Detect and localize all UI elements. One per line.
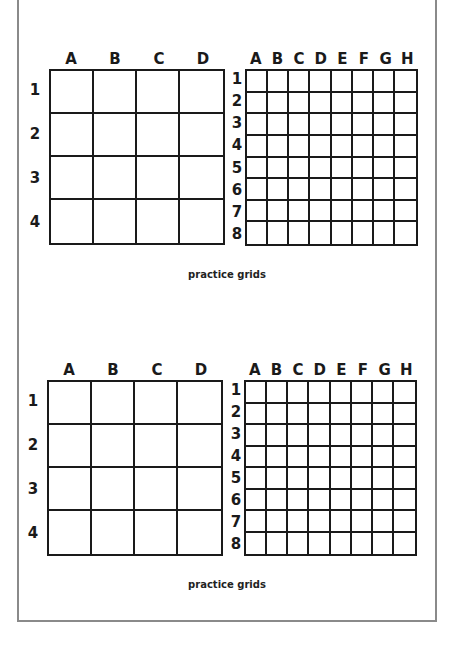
row-label: 5 [229, 471, 243, 486]
row-label: 4 [23, 526, 43, 541]
row-label: 3 [229, 427, 243, 442]
grid-cell [395, 201, 416, 223]
grid-cell [289, 201, 310, 223]
column-label: C [135, 363, 179, 378]
row-label: 2 [23, 438, 43, 453]
grid-cell [353, 71, 374, 93]
grid-cell [268, 222, 289, 244]
grid-cell [247, 201, 268, 223]
grid-cell [373, 511, 394, 533]
grid-cell [180, 157, 223, 200]
column-label: B [93, 52, 137, 67]
grid-cell [288, 425, 309, 447]
column-label: A [49, 52, 93, 67]
column-label: G [375, 52, 397, 67]
grid-cell [309, 511, 330, 533]
row-label: 3 [230, 116, 244, 131]
grid-cell [267, 490, 288, 512]
grid-cell [92, 382, 135, 425]
grid-cell [135, 511, 178, 554]
row-label: 2 [25, 127, 45, 142]
grid-cell [268, 136, 289, 158]
column-label: D [310, 52, 332, 67]
grid-cell [394, 468, 415, 490]
grid-cell [268, 114, 289, 136]
grid-cell [289, 114, 310, 136]
grid-cell [94, 200, 137, 243]
grid-cell [246, 425, 267, 447]
grid-cell [268, 179, 289, 201]
grid-cell [353, 114, 374, 136]
row-label: 8 [229, 537, 243, 552]
grid-cell [288, 404, 309, 426]
grid-cell [247, 158, 268, 180]
grid-cell [310, 71, 331, 93]
grid-cell [180, 200, 223, 243]
grid-cell [92, 425, 135, 468]
grid-cell [49, 468, 92, 511]
grid-cell [94, 157, 137, 200]
grid-cell [310, 222, 331, 244]
grid-cell [247, 71, 268, 93]
row-label: 1 [230, 72, 244, 87]
grid-cell [288, 490, 309, 512]
grid-cell [49, 382, 92, 425]
grid-cell [353, 136, 374, 158]
row-label: 2 [230, 94, 244, 109]
grid-cell [246, 382, 267, 404]
column-label: B [91, 363, 135, 378]
grid-cell [51, 114, 94, 157]
grid-cell [332, 179, 353, 201]
grid-cell [332, 136, 353, 158]
grid-cell [247, 93, 268, 115]
column-label: F [352, 363, 374, 378]
grid-cell [135, 382, 178, 425]
row-label: 2 [229, 405, 243, 420]
grid-cell [331, 447, 352, 469]
column-label: A [244, 363, 266, 378]
grid-cell [353, 179, 374, 201]
column-label: E [331, 363, 353, 378]
grid-cell [331, 490, 352, 512]
grid-cell [352, 468, 373, 490]
row-label: 3 [23, 482, 43, 497]
grid-cell [352, 425, 373, 447]
column-label: C [287, 363, 309, 378]
grid-cell [374, 222, 395, 244]
grid-cell [267, 382, 288, 404]
grid-cell [289, 222, 310, 244]
grid-8x8 [245, 69, 418, 246]
grid-cell [310, 158, 331, 180]
grid-cell [135, 468, 178, 511]
grid-cell [137, 114, 180, 157]
grid-cell [374, 93, 395, 115]
grid-4x4 [49, 69, 225, 245]
grid-cell [332, 114, 353, 136]
grid-cell [309, 404, 330, 426]
column-label: D [179, 363, 223, 378]
row-label: 6 [229, 493, 243, 508]
grid-cell [331, 511, 352, 533]
caption: practice grids [0, 579, 454, 590]
row-label: 7 [229, 515, 243, 530]
grid-cell [394, 382, 415, 404]
column-label: B [266, 363, 288, 378]
grid-cell [374, 179, 395, 201]
grid-cell [352, 490, 373, 512]
grid-cell [352, 511, 373, 533]
grid-cell [395, 222, 416, 244]
grid-cell [268, 71, 289, 93]
grid-cell [332, 201, 353, 223]
row-label: 1 [23, 394, 43, 409]
column-label: B [267, 52, 289, 67]
grid-cell [331, 425, 352, 447]
grid-cell [395, 71, 416, 93]
grid-cell [394, 533, 415, 555]
grid-cell [288, 447, 309, 469]
column-label: F [353, 52, 375, 67]
grid-cell [247, 222, 268, 244]
grid-cell [246, 447, 267, 469]
grid-cell [352, 533, 373, 555]
grid-cell [374, 201, 395, 223]
grid-cell [289, 179, 310, 201]
